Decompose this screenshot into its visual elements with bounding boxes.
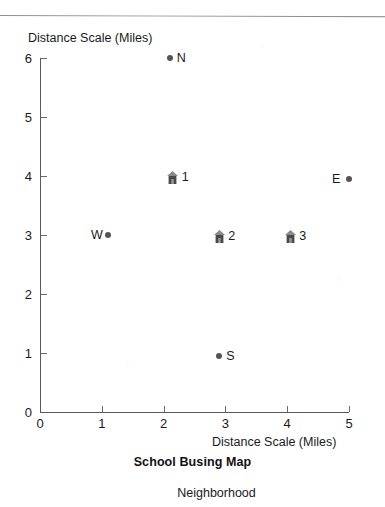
x-axis-line bbox=[40, 412, 349, 413]
y-axis-title: Distance Scale (Miles) bbox=[28, 31, 152, 45]
school-house-label: 3 bbox=[299, 230, 306, 242]
compass-point-label: W bbox=[91, 229, 103, 241]
x-tick-label: 4 bbox=[274, 414, 300, 429]
compass-point-marker bbox=[346, 176, 352, 182]
x-tick-label: 2 bbox=[151, 414, 177, 429]
scatter-plot: Distance Scale (Miles) 0123456 012345 NE… bbox=[0, 0, 385, 507]
page-divider-rule bbox=[0, 15, 385, 17]
x-tick-label-text: 1 bbox=[98, 416, 105, 431]
x-tick-label-text: 2 bbox=[160, 416, 167, 431]
x-tick-mark bbox=[225, 406, 226, 412]
school-house-label: 2 bbox=[228, 230, 235, 242]
school-house-icon bbox=[285, 229, 296, 242]
y-tick-mark bbox=[41, 235, 47, 236]
school-house-label: 1 bbox=[182, 171, 189, 183]
y-tick-label-text: 3 bbox=[4, 229, 32, 242]
y-tick-label-text: 1 bbox=[4, 347, 32, 360]
y-tick-label-text: 2 bbox=[4, 288, 32, 301]
x-tick-mark bbox=[102, 406, 103, 412]
y-tick-mark bbox=[41, 353, 47, 354]
x-tick-label-text: 3 bbox=[222, 416, 229, 431]
school-house-icon bbox=[214, 229, 225, 242]
y-tick-label-text: 5 bbox=[4, 111, 32, 124]
y-tick-label: 1 bbox=[0, 347, 32, 360]
x-tick-mark bbox=[164, 406, 165, 412]
x-tick-label: 0 bbox=[27, 414, 53, 429]
compass-point-marker bbox=[167, 55, 173, 61]
y-tick-mark bbox=[41, 176, 47, 177]
y-tick-label: 3 bbox=[0, 229, 32, 242]
x-tick-label-text: 0 bbox=[36, 416, 43, 431]
x-tick-label-text: 4 bbox=[284, 416, 291, 431]
y-tick-label-text: 4 bbox=[4, 170, 32, 183]
scan-texture-overlay bbox=[0, 0, 385, 507]
x-tick-mark bbox=[287, 406, 288, 412]
y-tick-mark bbox=[41, 294, 47, 295]
compass-point-marker bbox=[216, 353, 222, 359]
compass-point-label: N bbox=[177, 52, 186, 64]
compass-point-marker bbox=[105, 232, 111, 238]
school-house-icon bbox=[167, 170, 178, 183]
x-tick-label: 3 bbox=[212, 414, 238, 429]
y-tick-mark bbox=[41, 58, 47, 59]
x-tick-label: 5 bbox=[336, 414, 362, 429]
chart-title: School Busing Map bbox=[0, 455, 385, 469]
y-tick-mark bbox=[41, 117, 47, 118]
chart-subtitle: Neighborhood bbox=[0, 486, 385, 500]
y-tick-label: 6 bbox=[0, 52, 32, 65]
x-tick-label: 1 bbox=[89, 414, 115, 429]
x-tick-label-text: 5 bbox=[345, 416, 352, 431]
x-tick-mark bbox=[349, 406, 350, 412]
compass-point-label: S bbox=[226, 350, 234, 362]
x-axis-title: Distance Scale (Miles) bbox=[212, 435, 336, 449]
y-tick-label: 5 bbox=[0, 111, 32, 124]
y-tick-label: 2 bbox=[0, 288, 32, 301]
y-tick-label-text: 6 bbox=[4, 52, 32, 65]
y-tick-label: 4 bbox=[0, 170, 32, 183]
compass-point-label: E bbox=[332, 173, 340, 185]
